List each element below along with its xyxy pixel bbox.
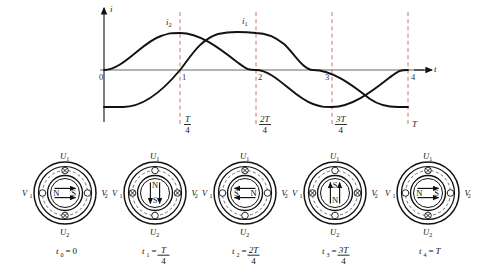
- conductor-symbol-top: [242, 167, 249, 174]
- conductor-symbol-right: [174, 190, 181, 197]
- time-value-numerator: 3T: [338, 245, 350, 255]
- pole-label-top: N: [152, 180, 158, 190]
- time-value: 0: [73, 246, 78, 256]
- time-value-numerator: 2T: [249, 245, 260, 255]
- time-value-numerator: T: [161, 245, 167, 255]
- time-variable: t: [232, 246, 235, 256]
- conductor-symbol-left: [129, 190, 136, 197]
- svg-text:1: 1: [66, 156, 69, 162]
- svg-text:2: 2: [105, 193, 108, 199]
- time-caption: t3=3T4: [322, 245, 350, 267]
- time-variable: t: [142, 246, 145, 256]
- x-tick-3: 3: [325, 72, 329, 82]
- conductor-symbol-top: [152, 167, 159, 174]
- pole-label-left: S: [234, 188, 239, 198]
- x-tick-0: 0: [99, 72, 103, 82]
- conductor-symbol-left: [309, 190, 316, 197]
- conductor-symbol-right: [354, 190, 361, 197]
- svg-text:1: 1: [210, 193, 213, 199]
- time-variable: t: [56, 246, 59, 256]
- time-value-denominator: 4: [161, 256, 166, 266]
- svg-text:2: 2: [336, 232, 339, 238]
- terminal-label-u1: U1: [150, 151, 159, 162]
- terminal-label-v2: V2: [102, 188, 109, 199]
- time-caption: t4=T: [419, 246, 442, 258]
- conductor-symbol-bottom: [332, 212, 339, 219]
- svg-text:2: 2: [468, 193, 471, 199]
- svg-text:V: V: [385, 188, 392, 198]
- time-subscript: 1: [146, 252, 149, 258]
- time-equals: =: [428, 246, 433, 256]
- conductor-symbol-top: [62, 167, 69, 174]
- pole-label-top: S: [333, 180, 338, 190]
- terminal-label-v2: V2: [192, 188, 199, 199]
- time-equals: =: [65, 246, 70, 256]
- svg-text:1: 1: [393, 193, 396, 199]
- terminal-label-u2: U2: [150, 227, 159, 238]
- terminal-label-v1: V1: [22, 188, 33, 199]
- time-equals: =: [331, 246, 336, 256]
- svg-text:2: 2: [195, 193, 198, 199]
- conductor-symbol-bottom: [152, 212, 159, 219]
- svg-text:V: V: [202, 188, 209, 198]
- curve-label-i2-sub: 2: [169, 21, 172, 28]
- svg-text:2: 2: [156, 232, 159, 238]
- time-variable: t: [322, 246, 325, 256]
- svg-text:2: 2: [246, 232, 249, 238]
- y-axis-label: i: [110, 4, 113, 14]
- terminal-label-v1: V1: [385, 188, 396, 199]
- curve-label-i1: i1: [242, 16, 248, 27]
- terminal-label-u2: U2: [423, 227, 432, 238]
- period-label-2T4: 2T4: [259, 110, 271, 135]
- time-value-denominator: 4: [341, 256, 346, 266]
- pole-label-right: S: [434, 188, 439, 198]
- period-label-T: T: [412, 113, 417, 131]
- time-value: T: [436, 246, 442, 256]
- time-variable: t: [419, 246, 422, 256]
- motor-3: SNU1U2V1V2t3=3T4: [292, 151, 379, 267]
- curve-label-i1-sub: 1: [245, 20, 248, 27]
- svg-text:V: V: [112, 188, 119, 198]
- time-subscript: 4: [423, 252, 426, 258]
- pole-label-left: N: [416, 188, 422, 198]
- conductor-symbol-left: [219, 190, 226, 197]
- terminal-label-u2: U2: [240, 227, 249, 238]
- pole-label-left: N: [53, 188, 59, 198]
- terminal-label-v2: V2: [372, 188, 379, 199]
- svg-text:1: 1: [120, 193, 123, 199]
- conductor-symbol-top: [425, 167, 432, 174]
- time-subscript: 3: [326, 252, 329, 258]
- motor-0: NSU1U2V1V2t0=0: [22, 151, 109, 258]
- period-label-3T4: 3T4: [335, 110, 347, 135]
- terminal-label-v1: V1: [202, 188, 213, 199]
- figure-canvas: NSU1U2V1V2t0=0NSU1U2V1V2t1=T4SNU1U2V1V2t…: [0, 0, 499, 274]
- waveform-chart: [100, 8, 432, 126]
- terminal-label-u1: U1: [60, 151, 69, 162]
- motor-diagrams: NSU1U2V1V2t0=0NSU1U2V1V2t1=T4SNU1U2V1V2t…: [22, 151, 472, 267]
- time-equals: =: [241, 246, 246, 256]
- conductor-symbol-bottom: [62, 212, 69, 219]
- terminal-label-v2: V2: [465, 188, 472, 199]
- terminal-label-v1: V1: [112, 188, 123, 199]
- pole-label-right: N: [251, 188, 257, 198]
- motor-2: SNU1U2V1V2t2=2T4: [202, 151, 289, 267]
- svg-text:2: 2: [375, 193, 378, 199]
- svg-text:1: 1: [246, 156, 249, 162]
- time-caption: t1=T4: [142, 245, 170, 267]
- svg-text:1: 1: [30, 193, 33, 199]
- period-label-T4: T4: [184, 110, 191, 135]
- svg-text:2: 2: [66, 232, 69, 238]
- svg-text:2: 2: [429, 232, 432, 238]
- terminal-label-u1: U1: [330, 151, 339, 162]
- terminal-label-u1: U1: [423, 151, 432, 162]
- time-equals: =: [151, 246, 156, 256]
- time-caption: t0=0: [56, 246, 78, 258]
- motor-4: NSU1U2V1V2t4=T: [385, 151, 472, 258]
- terminal-label-v2: V2: [282, 188, 289, 199]
- conductor-symbol-left: [39, 190, 46, 197]
- svg-text:V: V: [22, 188, 29, 198]
- time-caption: t2=2T4: [232, 245, 260, 267]
- motor-1: NSU1U2V1V2t1=T4: [112, 151, 199, 267]
- svg-text:V: V: [292, 188, 299, 198]
- time-subscript: 0: [60, 252, 63, 258]
